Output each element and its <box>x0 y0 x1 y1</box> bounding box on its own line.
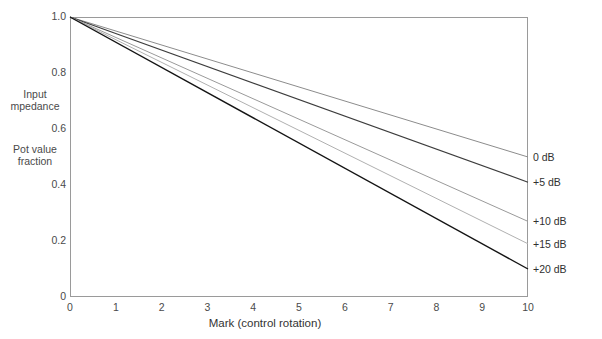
y-axis-label-line: mpedance <box>2 100 68 112</box>
x-axis-title: Mark (control rotation) <box>0 317 530 330</box>
x-tick-label: 4 <box>241 301 265 313</box>
y-tick-label: 0.6 <box>32 123 66 134</box>
x-tick-label: 6 <box>333 301 357 313</box>
y-tick-label: 0.4 <box>32 179 66 190</box>
series-line <box>70 17 528 269</box>
x-tick-label: 8 <box>424 301 448 313</box>
y-tick-label: 1.0 <box>32 11 66 22</box>
y-axis-label-line: Pot value <box>2 143 68 155</box>
x-tick-label: 0 <box>58 301 82 313</box>
y-axis-label-block: Inputmpedance <box>2 88 68 112</box>
plot-lines <box>70 17 528 297</box>
y-axis-label-block: Pot valuefraction <box>2 143 68 167</box>
x-tick-label: 2 <box>150 301 174 313</box>
x-tick-label: 7 <box>379 301 403 313</box>
x-tick-label: 3 <box>195 301 219 313</box>
series-line <box>70 17 528 244</box>
y-axis-label-line: Input <box>2 88 68 100</box>
x-tick-label: 10 <box>516 301 540 313</box>
series-line <box>70 17 528 221</box>
x-tick-label: 5 <box>287 301 311 313</box>
y-axis-label-line: fraction <box>2 155 68 167</box>
series-line <box>70 17 528 182</box>
x-tick-label: 9 <box>470 301 494 313</box>
y-tick-label: 0.8 <box>32 67 66 78</box>
y-tick-label: 0.2 <box>32 235 66 246</box>
series-line <box>70 17 528 157</box>
series-label: +20 dB <box>533 263 567 275</box>
x-tick-label: 1 <box>104 301 128 313</box>
series-label: +15 dB <box>533 238 567 250</box>
series-label: +5 dB <box>533 176 561 188</box>
chart-figure: 00.20.40.60.81.0 InputmpedancePot valuef… <box>0 0 602 339</box>
series-label: 0 dB <box>533 151 555 163</box>
series-label: +10 dB <box>533 215 567 227</box>
